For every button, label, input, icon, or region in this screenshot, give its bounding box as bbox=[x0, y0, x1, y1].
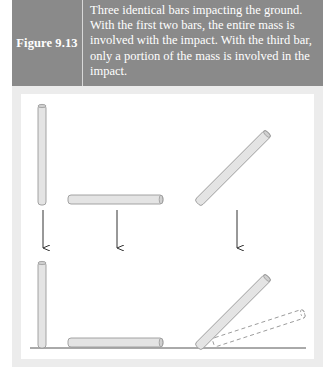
vertical-bar-after bbox=[38, 261, 46, 348]
figure-caption: Three identical bars impacting the groun… bbox=[83, 0, 323, 86]
figure-label: Figure 9.13 bbox=[12, 0, 83, 86]
horizontal-bar-after bbox=[68, 338, 163, 347]
impact-diagram bbox=[21, 94, 314, 359]
figure-panel bbox=[12, 86, 323, 367]
diagonal-bar-after bbox=[194, 273, 271, 350]
horizontal-bar-before bbox=[68, 195, 163, 204]
diagonal-bar-before bbox=[194, 129, 271, 206]
figure-caption-bar: Figure 9.13 Three identical bars impacti… bbox=[12, 0, 323, 86]
vertical-bar-before bbox=[38, 104, 46, 205]
diagram-area bbox=[21, 94, 314, 359]
